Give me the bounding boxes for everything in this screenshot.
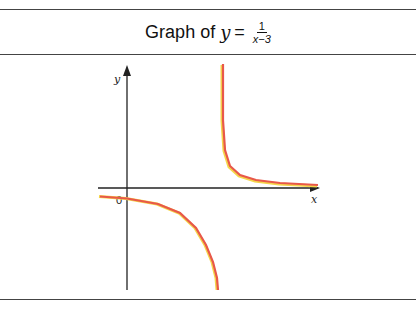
- y-axis-label: y: [113, 73, 121, 86]
- curve-right-branch: [223, 64, 318, 185]
- curve-right-highlight: [222, 65, 317, 186]
- curve-left-highlight: [99, 197, 217, 291]
- origin-label: 0: [116, 194, 122, 206]
- x-axis-label: x: [311, 193, 318, 206]
- curve-left-branch: [100, 197, 218, 291]
- plot-area: x y 0: [0, 0, 416, 309]
- y-axis-arrow-icon: [123, 65, 131, 76]
